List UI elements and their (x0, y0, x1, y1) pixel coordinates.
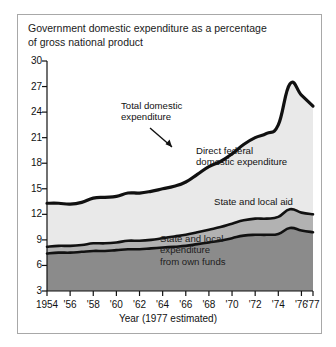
y-tick-label: 18 (14, 157, 42, 168)
y-tick-label: 27 (14, 81, 42, 92)
annotation-line: Total domestic (121, 100, 182, 111)
x-tick-label: '77 (297, 299, 329, 310)
annotation-line: domestic expenditure (196, 156, 287, 167)
y-tick-label: 6 (14, 259, 42, 270)
chart-plot-area: 36912151821242730 1954'56'58'60'62'64'66… (0, 0, 336, 347)
annotation-line: from own funds (160, 256, 226, 267)
x-axis-title: Year (1977 estimated) (0, 313, 336, 324)
annotation-direct-federal: Direct federaldomestic expenditure (196, 145, 287, 168)
y-tick-label: 3 (14, 285, 42, 296)
y-tick-label: 30 (14, 55, 42, 66)
annotation-line: expenditure (160, 244, 226, 255)
annotation-line: State and local (160, 233, 226, 244)
annotation-total-domestic: Total domesticexpenditure (121, 100, 182, 123)
annotation-state-local-aid: State and local aid (214, 196, 293, 207)
y-tick-label: 21 (14, 132, 42, 143)
x-tick-marks (47, 291, 313, 296)
annotation-line: expenditure (121, 111, 182, 122)
annotation-line: State and local aid (214, 196, 293, 207)
y-tick-marks (42, 61, 47, 291)
y-tick-label: 24 (14, 106, 42, 117)
annotation-state-local-own-funds: State and localexpenditurefrom own funds (160, 233, 226, 267)
y-tick-label: 15 (14, 183, 42, 194)
y-tick-label: 9 (14, 234, 42, 245)
annotation-line: Direct federal (196, 145, 287, 156)
chart-svg (0, 0, 336, 347)
annotation-arrow (150, 128, 172, 147)
y-tick-label: 12 (14, 208, 42, 219)
